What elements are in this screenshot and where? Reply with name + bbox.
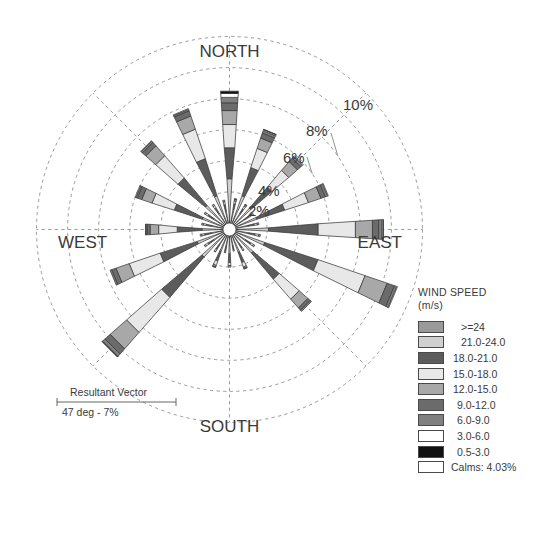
compass-label-north: NORTH [199,42,259,61]
petal-S [228,236,231,267]
petal-segment-12.0-15.0 [204,212,206,215]
petal-segment-15.0-18.0 [183,129,206,162]
legend-item--24: >=24 [418,319,546,335]
compass-label-west: WEST [58,233,107,252]
compass-label-east: EAST [358,233,402,252]
petal-segment-21.0-24.0 [225,211,227,219]
legend-label: 6.0-9.0 [457,414,490,426]
legend-swatch [418,399,444,411]
legend-item-3.0-6.0: 3.0-6.0 [418,428,546,444]
petal-WSW [110,232,223,285]
petal-segment-12.0-15.0 [228,266,231,268]
tick-leader-6% [307,157,312,174]
petal-segment-12.0-15.0 [200,234,202,236]
legend-label: >=24 [461,321,485,333]
petal-segment-15.0-18.0 [228,262,231,265]
petal-segment-18.0-21.0 [208,240,214,245]
petal-segment-21.0-24.0 [232,209,234,218]
petal-segment-18.0-21.0 [242,167,258,196]
legend-label-calms: Calms: 4.03% [451,461,516,473]
petal-segment-21.0-24.0 [240,225,248,227]
petal-segment-18.0-21.0 [174,204,203,219]
petal-segment-12.0-15.0 [223,200,225,202]
petal-segment--24 [227,236,228,241]
petal-segment-18.0-21.0 [245,240,251,245]
petal-segment-21.0-24.0 [229,242,230,254]
petal-segment--24 [227,219,228,224]
petal-segment-18.0-21.0 [162,255,204,297]
petal-segment-18.0-21.0 [228,254,230,263]
legend-swatch [418,414,444,426]
petal-segment-12.0-15.0 [242,249,244,250]
radial-tick-label-8%: 8% [306,122,328,139]
petal-segment-15.0-18.0 [313,260,365,293]
legend-swatch-calms [418,461,444,473]
radial-tick-label-10%: 10% [343,96,373,113]
petal-segment-15.0-18.0 [282,193,308,211]
calms-hub [223,223,236,236]
resultant-vector-caption: Resultant Vector [70,386,148,398]
petal-segment-9.0-12.0 [234,199,236,200]
petal-segment-18.0-21.0 [208,215,214,220]
legend-item-0.5-3.0: 0.5-3.0 [418,444,546,460]
radial-tick-label-6%: 6% [283,149,305,166]
legend-label: 9.0-12.0 [457,399,496,411]
petal-segment-12.0-15.0 [222,111,237,125]
petal-segment-18.0-21.0 [248,224,254,226]
legend-label: 21.0-24.0 [461,336,505,348]
petal-segment-15.0-18.0 [318,221,355,237]
petal-segment--24 [229,236,230,242]
petal-segment-21.0-24.0 [212,226,219,228]
calms-circle [223,223,236,236]
petal-segment-18.0-21.0 [205,233,211,235]
wind-petals [102,91,397,357]
legend-item-calms: Calms: 4.03% [418,459,546,475]
petal-segment--24 [219,231,224,232]
petal-segment-12.0-15.0 [224,252,225,253]
legend-item-15.0-18.0: 15.0-18.0 [418,366,546,382]
petal-segment-12.0-15.0 [212,204,215,206]
petal-segment-15.0-18.0 [159,225,178,234]
petal-segment-21.0-24.0 [211,231,219,233]
legend-label: 0.5-3.0 [457,446,490,458]
petal-segment-12.0-15.0 [257,223,259,225]
petal-segment-18.0-21.0 [264,242,318,270]
legend-title-line1: WIND SPEED [418,286,546,299]
petal-segment-0.5-3.0 [221,91,239,93]
legend-label: 15.0-18.0 [453,368,497,380]
legend-items: >=2421.0-24.018.0-21.015.0-18.012.0-15.0… [418,319,546,475]
petal-segment-6.0-9.0 [221,97,238,102]
petal-segment-18.0-21.0 [269,224,319,235]
legend-item-21.0-24.0: 21.0-24.0 [418,335,546,351]
petal-segment-18.0-21.0 [196,159,217,197]
petal-segment-15.0-18.0 [129,253,164,276]
petal-segment-21.0-24.0 [202,229,218,231]
legend-label: 18.0-21.0 [453,352,497,364]
petal-segment-12.0-15.0 [252,244,254,247]
petal-segment-18.0-21.0 [249,233,255,236]
petal-segment--24 [229,216,230,223]
legend-swatch [418,430,444,442]
petal-segment-9.0-12.0 [221,103,237,111]
petal-segment-18.0-21.0 [224,148,235,179]
legend-swatch [418,352,444,364]
petal-segment-18.0-21.0 [178,178,207,207]
legend-item-12.0-15.0: 12.0-15.0 [418,381,546,397]
petal-segment-18.0-21.0 [225,246,227,250]
petal-segment-18.0-21.0 [224,205,226,211]
legend-item-6.0-9.0: 6.0-9.0 [418,413,546,429]
legend-swatch [418,383,444,395]
legend-swatch [418,321,444,333]
petal-segment-18.0-21.0 [233,204,235,210]
petal-segment-12.0-15.0 [204,244,206,247]
legend-swatch [418,336,444,348]
petal-segment-21.0-24.0 [227,179,232,216]
legend-item-18.0-21.0: 18.0-21.0 [418,350,546,366]
legend-label: 3.0-6.0 [457,430,490,442]
petal-segment-12.0-15.0 [150,224,159,234]
legend: WIND SPEED (m/s) >=2421.0-24.018.0-21.01… [418,286,546,475]
petal-segment-9.0-12.0 [147,224,150,235]
legend-item-9.0-12.0: 9.0-12.0 [418,397,546,413]
petal-segment-12.0-15.0 [202,223,204,225]
tick-leader-8% [331,133,338,156]
